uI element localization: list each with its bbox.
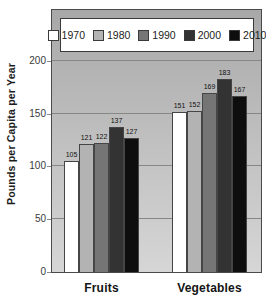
bar-value-fruits-2000: 137 (104, 117, 130, 125)
bar-fruits-2000 (109, 127, 124, 272)
y-tick-mark-100 (47, 166, 51, 167)
bar-value-vegetables-2000: 183 (212, 69, 238, 77)
y-tick-mark-200 (47, 61, 51, 62)
bar-fruits-1980 (79, 144, 94, 272)
legend-label-2000: 2000 (198, 30, 221, 41)
y-tick-mark-50 (47, 219, 51, 220)
bar-vegetables-2000 (217, 79, 232, 272)
bar-fruits-1970 (64, 161, 79, 272)
bar-vegetables-2010 (232, 96, 247, 272)
bar-vegetables-1970 (172, 112, 187, 272)
legend-item-1990: 1990 (138, 30, 175, 41)
bar-value-vegetables-2010: 167 (227, 86, 253, 94)
legend-swatch-1970 (48, 30, 59, 41)
bar-fruits-1990 (94, 143, 109, 272)
legend-swatch-2010 (229, 30, 240, 41)
bar-value-vegetables-1990: 169 (197, 83, 223, 91)
legend-label-1970: 1970 (62, 30, 85, 41)
y-tick-200: 200 (20, 56, 46, 66)
bar-value-fruits-1990: 122 (89, 133, 115, 141)
x-category-fruits: Fruits (57, 281, 147, 295)
legend-item-1970: 1970 (48, 30, 85, 41)
legend-label-1990: 1990 (152, 30, 175, 41)
y-tick-100: 100 (20, 161, 46, 171)
legend: 19701980199020002010 (60, 18, 254, 52)
y-tick-0: 0 (20, 267, 46, 277)
legend-item-1980: 1980 (93, 30, 130, 41)
legend-swatch-2000 (184, 30, 195, 41)
legend-item-2010: 2010 (229, 30, 266, 41)
bar-value-fruits-1970: 105 (59, 151, 85, 159)
y-axis-title: Pounds per Capita per Year (5, 24, 21, 244)
bar-chart-figure: Pounds per Capita per Year 1051211221371… (0, 0, 266, 302)
y-tick-150: 150 (20, 109, 46, 119)
gridline-200 (52, 60, 261, 61)
legend-swatch-1990 (138, 30, 149, 41)
bar-vegetables-1990 (202, 93, 217, 272)
y-tick-50: 50 (20, 214, 46, 224)
legend-label-1980: 1980 (107, 30, 130, 41)
bar-fruits-2010 (124, 138, 139, 272)
bar-value-fruits-2010: 127 (119, 128, 145, 136)
y-tick-mark-150 (47, 114, 51, 115)
bar-vegetables-1980 (187, 111, 202, 272)
legend-swatch-1980 (93, 30, 104, 41)
bar-value-vegetables-1980: 152 (182, 101, 208, 109)
x-category-vegetables: Vegetables (165, 281, 255, 295)
legend-item-2000: 2000 (184, 30, 221, 41)
legend-label-2010: 2010 (243, 30, 266, 41)
y-tick-mark-0 (47, 272, 51, 273)
